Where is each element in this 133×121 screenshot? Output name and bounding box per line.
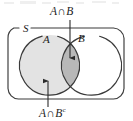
intersection-operator-icon: ∩: [46, 107, 55, 119]
label-set-a: A: [43, 34, 50, 45]
bottom-callout-left-set: A: [39, 107, 46, 119]
complement-superscript-icon: c: [62, 106, 65, 114]
top-callout-left-set: A: [50, 5, 57, 17]
venn-diagram-canvas: [0, 0, 133, 121]
label-a-intersect-b-complement: A∩Bc: [39, 108, 66, 120]
venn-diagram-figure: A∩B A∩Bc S A B: [0, 0, 133, 121]
label-a-intersect-b: A∩B: [50, 6, 73, 18]
top-callout-right-set: B: [66, 5, 73, 17]
intersection-operator-icon: ∩: [57, 5, 66, 17]
label-set-b: B: [78, 33, 85, 44]
label-sample-space-s: S: [23, 23, 29, 34]
